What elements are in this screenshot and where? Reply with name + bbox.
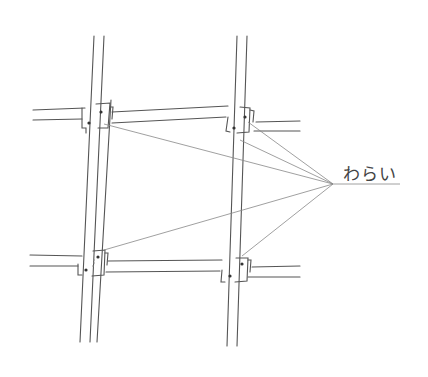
top-rail [33, 106, 300, 131]
clamp-top-right [226, 107, 254, 133]
scaffold-diagram [0, 0, 428, 377]
clamp-bottom-right [221, 258, 251, 282]
clamp-top-left [82, 103, 113, 133]
right-post [227, 36, 247, 346]
warai-label: わらい [343, 160, 397, 185]
bottom-rail [30, 255, 300, 277]
left-post [80, 36, 111, 342]
leader-lines [104, 122, 400, 256]
